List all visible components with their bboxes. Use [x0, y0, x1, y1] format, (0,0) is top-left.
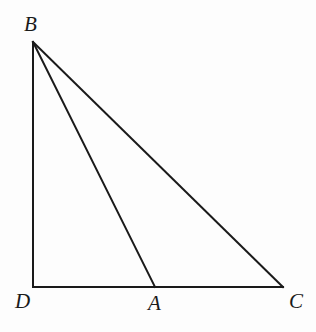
figure-canvas — [0, 0, 316, 332]
geometry-figure: B D A C — [0, 0, 316, 332]
segments-group — [33, 42, 283, 287]
vertex-label-b: B — [24, 14, 37, 35]
vertex-label-a: A — [148, 293, 161, 314]
vertex-label-d: D — [15, 291, 30, 312]
segment-bc — [33, 42, 283, 287]
segment-ba — [33, 42, 155, 287]
vertex-label-c: C — [289, 291, 303, 312]
